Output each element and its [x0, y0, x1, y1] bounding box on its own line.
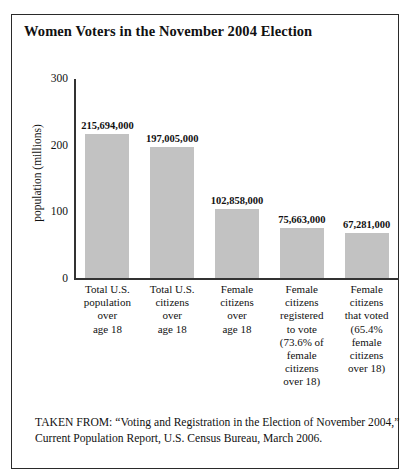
- category-label-line: to vote: [270, 323, 334, 336]
- category-label-line: Total U.S.: [140, 283, 204, 296]
- bar-item[interactable]: 75,663,000: [280, 228, 324, 278]
- chart-plot-area: population (millions) 0100200300 215,694…: [12, 55, 400, 400]
- x-axis-category-label: Femalecitizensregisteredto vote(73.6% of…: [270, 283, 334, 389]
- category-label-line: registered: [270, 309, 334, 322]
- category-label-line: age 18: [205, 323, 269, 336]
- bar-item[interactable]: 102,858,000: [215, 209, 259, 278]
- category-label-line: female: [270, 349, 334, 362]
- category-label-line: age 18: [140, 323, 204, 336]
- x-axis-category-label: Total U.S.populationoverage 18: [75, 283, 139, 336]
- category-label-line: citizens: [335, 349, 399, 362]
- x-axis-category-label: Femalecitizensoverage 18: [205, 283, 269, 336]
- category-label-line: Female: [335, 283, 399, 296]
- bar-item[interactable]: 197,005,000: [150, 147, 194, 278]
- category-label-line: citizens: [270, 296, 334, 309]
- y-axis-tick-label: 200: [12, 139, 68, 151]
- category-label-line: over 18): [270, 375, 334, 388]
- source-caption: TAKEN FROM: “Voting and Registration in …: [35, 415, 407, 446]
- category-label-line: Female: [205, 283, 269, 296]
- category-label-line: over: [205, 309, 269, 322]
- x-axis-category-label: Femalecitizensthat voted(65.4%femaleciti…: [335, 283, 399, 375]
- bar-item[interactable]: 215,694,000: [85, 134, 129, 278]
- category-label-line: Total U.S.: [75, 283, 139, 296]
- category-label-line: citizens: [140, 296, 204, 309]
- bar-value-label: 215,694,000: [81, 120, 134, 131]
- category-label-line: (65.4%: [335, 323, 399, 336]
- bar-value-label: 67,281,000: [343, 219, 390, 230]
- bar-rect: [345, 233, 389, 278]
- category-label-line: citizens: [205, 296, 269, 309]
- category-label-line: population: [75, 296, 139, 309]
- bar-rect: [215, 209, 259, 278]
- category-label-line: Female: [270, 283, 334, 296]
- bar-item[interactable]: 67,281,000: [345, 233, 389, 278]
- category-label-line: citizens: [270, 362, 334, 375]
- bar-value-label: 102,858,000: [211, 195, 264, 206]
- category-label-line: that voted: [335, 309, 399, 322]
- category-label-line: (73.6% of: [270, 336, 334, 349]
- category-label-line: over: [75, 309, 139, 322]
- figure-frame: Women Voters in the November 2004 Electi…: [11, 14, 399, 469]
- bar-rect: [85, 134, 129, 278]
- figure-title: Women Voters in the November 2004 Electi…: [24, 23, 312, 40]
- category-label-line: age 18: [75, 323, 139, 336]
- category-label-line: citizens: [335, 296, 399, 309]
- category-label-line: over: [140, 309, 204, 322]
- category-label-line: female: [335, 336, 399, 349]
- bar-value-label: 75,663,000: [278, 214, 325, 225]
- category-label-line: over 18): [335, 362, 399, 375]
- y-axis-ticks: 0100200300: [12, 55, 68, 400]
- x-axis-category-label: Total U.S.citizensoverage 18: [140, 283, 204, 336]
- y-axis-tick-label: 100: [12, 205, 68, 217]
- y-axis-tick-label: 0: [12, 272, 68, 284]
- bar-rect: [150, 147, 194, 278]
- bar-series: 215,694,000197,005,000102,858,00075,663,…: [75, 55, 399, 279]
- y-axis-tick-label: 300: [12, 72, 68, 84]
- bar-value-label: 197,005,000: [146, 133, 199, 144]
- bar-rect: [280, 228, 324, 278]
